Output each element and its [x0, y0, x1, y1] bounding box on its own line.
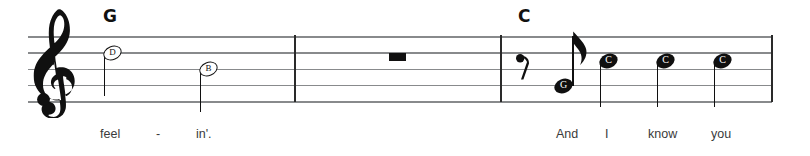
staff-line-4 [28, 85, 772, 87]
lyric-in: in'. [196, 128, 212, 141]
barline-3 [771, 35, 773, 102]
whole-rest-icon [389, 53, 406, 61]
staff-line-5 [28, 101, 772, 103]
lyric-feel: feel [100, 128, 120, 141]
lyric-and: And [556, 128, 578, 141]
lyric-you: you [711, 128, 731, 141]
treble-clef-icon [28, 6, 82, 122]
lyric-know: know [648, 128, 677, 141]
eighth-rest-icon [514, 53, 534, 85]
chord-symbol-g: G [103, 8, 117, 25]
lyric-i: I [605, 128, 608, 141]
music-staff-notation: G C D B feel - in'. G [0, 0, 810, 156]
chord-symbol-c: C [518, 8, 530, 25]
lyric-hyphen: - [156, 128, 160, 141]
staff-line-1 [28, 36, 772, 38]
barline-2 [500, 35, 502, 102]
staff-line-3 [28, 69, 772, 71]
barline-1 [294, 35, 296, 102]
eighth-flag-icon [571, 30, 595, 76]
